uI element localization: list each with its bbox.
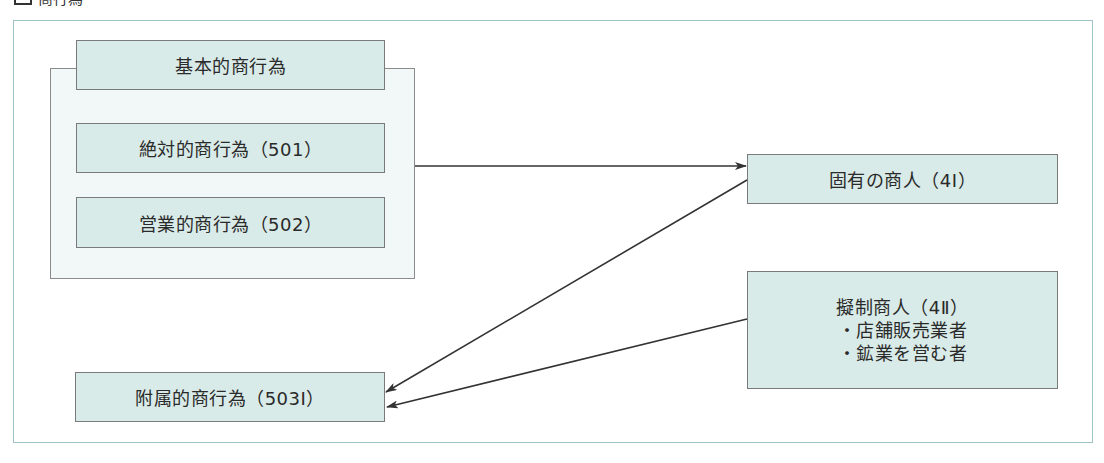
figure-heading: 商行為 bbox=[14, 0, 83, 6]
absolute-commercial-acts-label: 絶対的商行為（501） bbox=[139, 135, 323, 161]
square-box-icon bbox=[14, 0, 32, 5]
ancillary-commercial-acts-box: 附属的商行為（503Ⅰ） bbox=[75, 372, 385, 422]
figure-title: 商行為 bbox=[38, 0, 83, 8]
deemed-merchant-item: ・鉱業を営む者 bbox=[838, 342, 968, 365]
deemed-merchant-item: ・店舗販売業者 bbox=[838, 319, 968, 342]
ancillary-commercial-acts-label: 附属的商行為（503Ⅰ） bbox=[135, 384, 325, 410]
deemed-merchant-box: 擬制商人（4Ⅱ） ・店舗販売業者 ・鉱業を営む者 bbox=[747, 271, 1058, 389]
inherent-merchant-label: 固有の商人（4Ⅰ） bbox=[829, 166, 976, 192]
business-commercial-acts-box: 営業的商行為（502） bbox=[76, 197, 385, 248]
basic-commercial-acts-title-box: 基本的商行為 bbox=[76, 40, 385, 90]
deemed-merchant-title: 擬制商人（4Ⅱ） bbox=[836, 296, 968, 319]
absolute-commercial-acts-box: 絶対的商行為（501） bbox=[76, 123, 385, 173]
inherent-merchant-box: 固有の商人（4Ⅰ） bbox=[747, 154, 1058, 204]
business-commercial-acts-label: 営業的商行為（502） bbox=[139, 210, 323, 236]
basic-commercial-acts-title: 基本的商行為 bbox=[175, 52, 286, 78]
